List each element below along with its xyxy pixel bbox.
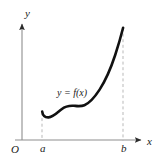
graph-canvas bbox=[0, 0, 162, 161]
x-axis-label: x bbox=[147, 136, 152, 147]
origin-label: O bbox=[11, 144, 19, 155]
y-axis-label: y bbox=[25, 8, 30, 19]
x-tick-label-a: a bbox=[40, 143, 46, 154]
function-graph-figure: y x O a b y = f(x) bbox=[0, 0, 162, 161]
curve-equation-label: y = f(x) bbox=[57, 88, 87, 98]
function-curve bbox=[42, 28, 123, 118]
x-tick-label-b: b bbox=[121, 143, 127, 154]
